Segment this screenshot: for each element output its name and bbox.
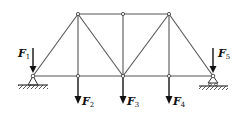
truss-diagram: F1 F5 F2 F3 F4 <box>0 0 243 116</box>
node-A <box>31 74 35 78</box>
node-B <box>76 74 79 77</box>
arrow-down-icon-f1 <box>30 48 37 73</box>
arrow-down-icon-f3 <box>120 78 127 104</box>
label-f2: F2 <box>81 95 94 109</box>
node-H <box>121 12 124 15</box>
member-IE <box>169 14 213 76</box>
member-AG <box>33 14 78 76</box>
member-GC <box>78 14 123 76</box>
label-f5: F5 <box>217 47 230 61</box>
arrow-down-icon-f2 <box>75 78 82 104</box>
node-E <box>211 74 215 78</box>
node-I <box>167 12 170 15</box>
label-f3: F3 <box>126 95 139 109</box>
label-f4: F4 <box>172 95 186 109</box>
label-f1: F1 <box>17 47 30 61</box>
arrow-down-icon-f4 <box>166 78 173 104</box>
node-C <box>121 74 124 77</box>
arrow-down-icon-f5 <box>210 48 217 73</box>
member-CI <box>123 14 169 76</box>
node-D <box>167 74 170 77</box>
node-G <box>76 12 79 15</box>
truss-members <box>33 14 213 76</box>
